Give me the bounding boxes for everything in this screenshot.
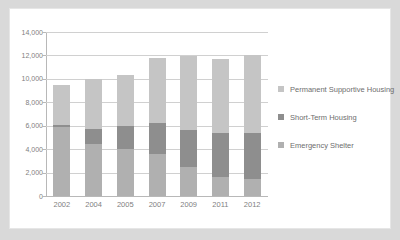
bar-2005[interactable]	[117, 32, 134, 196]
x-axis-tick-label: 2011	[203, 200, 237, 210]
bar-segment-permanent-supportive-housing[interactable]	[212, 59, 229, 133]
y-axis-tick	[42, 32, 46, 33]
bar-segment-emergency-shelter[interactable]	[53, 127, 70, 196]
legend-item-label: Permanent Supportive Housing	[290, 85, 394, 94]
y-axis-tick-label: 14,000	[13, 29, 43, 36]
y-axis-tick	[42, 173, 46, 174]
legend-item[interactable]: Permanent Supportive Housing	[278, 85, 400, 94]
y-axis-tick-label: 4,000	[13, 146, 43, 153]
y-axis-tick-label: 12,000	[13, 52, 43, 59]
bar-segment-emergency-shelter[interactable]	[244, 179, 261, 196]
legend-item-label: Short-Term Housing	[290, 113, 357, 122]
x-axis-tick-label: 2009	[172, 200, 206, 210]
y-axis-labels: 02,0004,0006,0008,00010,00012,00014,000	[10, 32, 43, 196]
x-axis-tick-label: 2004	[77, 200, 111, 210]
y-axis-tick	[42, 79, 46, 80]
legend-item[interactable]: Emergency Shelter	[278, 141, 400, 150]
bar-segment-short-term-housing[interactable]	[85, 129, 102, 144]
y-axis-tick	[42, 102, 46, 103]
y-axis-tick-label: 0	[13, 193, 43, 200]
bar-segment-short-term-housing[interactable]	[244, 133, 261, 179]
x-axis-tick-label: 2007	[140, 200, 174, 210]
y-axis-line	[46, 32, 47, 196]
bar-segment-permanent-supportive-housing[interactable]	[117, 75, 134, 127]
y-axis-tick	[42, 149, 46, 150]
legend-item[interactable]: Short-Term Housing	[278, 113, 400, 122]
y-axis-tick	[42, 196, 46, 197]
bar-segment-emergency-shelter[interactable]	[180, 167, 197, 196]
x-axis-tick-label: 2002	[45, 200, 79, 210]
y-axis-tick-label: 2,000	[13, 169, 43, 176]
bar-segment-emergency-shelter[interactable]	[85, 144, 102, 196]
x-axis-labels: 2002200420052007200920112012	[46, 200, 268, 214]
bar-2009[interactable]	[180, 32, 197, 196]
legend-item-label: Emergency Shelter	[290, 141, 354, 150]
bar-segment-emergency-shelter[interactable]	[149, 154, 166, 196]
legend-swatch-icon	[278, 86, 284, 92]
chart-panel: 02,0004,0006,0008,00010,00012,00014,000 …	[10, 9, 390, 228]
bar-2007[interactable]	[149, 32, 166, 196]
y-axis-tick-label: 10,000	[13, 75, 43, 82]
bar-segment-short-term-housing[interactable]	[117, 126, 134, 149]
bar-2011[interactable]	[212, 32, 229, 196]
chart-page-background: 02,0004,0006,0008,00010,00012,00014,000 …	[0, 0, 400, 240]
y-axis-tick	[42, 55, 46, 56]
x-axis-line	[46, 196, 268, 197]
y-axis-tick-label: 8,000	[13, 99, 43, 106]
bar-segment-permanent-supportive-housing[interactable]	[180, 56, 197, 130]
chart-legend: Permanent Supportive HousingShort-Term H…	[278, 85, 400, 169]
bar-segment-permanent-supportive-housing[interactable]	[244, 55, 261, 132]
bar-segment-permanent-supportive-housing[interactable]	[53, 85, 70, 125]
x-axis-tick-label: 2005	[108, 200, 142, 210]
bar-segment-short-term-housing[interactable]	[53, 125, 70, 127]
bar-segment-permanent-supportive-housing[interactable]	[85, 79, 102, 129]
bar-segment-short-term-housing[interactable]	[149, 123, 166, 154]
bar-segment-emergency-shelter[interactable]	[117, 149, 134, 196]
bar-2004[interactable]	[85, 32, 102, 196]
bar-2002[interactable]	[53, 32, 70, 196]
bar-2012[interactable]	[244, 32, 261, 196]
plot-area	[46, 32, 268, 196]
y-axis-tick-label: 6,000	[13, 122, 43, 129]
y-axis-tick	[42, 126, 46, 127]
bar-segment-short-term-housing[interactable]	[212, 133, 229, 177]
legend-swatch-icon	[278, 142, 284, 148]
x-axis-tick-label: 2012	[235, 200, 269, 210]
bar-segment-short-term-housing[interactable]	[180, 130, 197, 167]
bar-segment-emergency-shelter[interactable]	[212, 177, 229, 196]
legend-swatch-icon	[278, 114, 284, 120]
bar-segment-permanent-supportive-housing[interactable]	[149, 58, 166, 122]
